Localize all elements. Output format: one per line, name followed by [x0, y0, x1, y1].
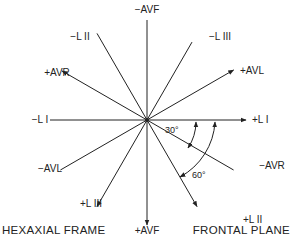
axis-lead-iii-positive	[97, 120, 147, 207]
axis-avr-positive	[62, 71, 147, 120]
angle-label-60: 60°	[192, 170, 206, 180]
title-frontal-plane: FRONTAL PLANE	[193, 224, 290, 236]
center-point	[145, 118, 149, 122]
label-neg-avf: −AVF	[135, 4, 160, 15]
label-neg-avl: −AVL	[38, 163, 62, 174]
angle-label-30: 30°	[165, 125, 179, 135]
label-pos-avr: +AVR	[44, 67, 70, 78]
label-neg-lead-iii: −L III	[209, 31, 231, 42]
label-pos-lead-iii: +L III	[80, 198, 102, 209]
title-hexaxial-frame: HEXAXIAL FRAME	[2, 224, 105, 236]
axis-lead-ii-negative	[97, 33, 147, 120]
axis-avl-positive	[147, 70, 234, 120]
label-pos-avf: +AVF	[135, 225, 160, 236]
axis-avl-negative	[60, 120, 147, 170]
axis-lead-iii-negative	[147, 42, 192, 120]
axes-layer	[50, 20, 246, 225]
label-pos-lead-i: +L I	[252, 114, 269, 125]
label-neg-lead-i: −L I	[32, 114, 49, 125]
hexaxial-diagram: 30° 60° −AVF +AVF −L II +L II −L III +L …	[0, 0, 292, 238]
label-neg-avr: −AVR	[259, 160, 285, 171]
label-pos-avl: +AVL	[240, 65, 264, 76]
label-neg-lead-ii: −L II	[70, 31, 89, 42]
